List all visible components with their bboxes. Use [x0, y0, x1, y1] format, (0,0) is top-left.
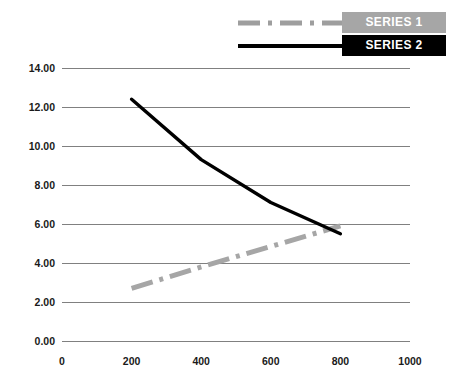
- y-axis-tick-label: 12.00: [3, 101, 55, 113]
- solid-line-icon: [238, 44, 348, 48]
- chart-legend: SERIES 1 SERIES 2: [238, 12, 446, 58]
- x-axis-tick-label: 800: [310, 355, 370, 367]
- y-axis-tick-label: 4.00: [3, 257, 55, 269]
- dash-dot-line-icon: [238, 20, 348, 25]
- x-axis-tick-label: 200: [102, 355, 162, 367]
- line-series-2: [132, 99, 341, 234]
- gridline: [62, 341, 410, 342]
- y-axis-tick-label: 10.00: [3, 140, 55, 152]
- legend-entry-series-1[interactable]: SERIES 1: [238, 12, 446, 33]
- line-series-1: [132, 226, 341, 288]
- x-axis-tick-label: 0: [32, 355, 92, 367]
- legend-entry-series-2[interactable]: SERIES 2: [238, 35, 446, 56]
- legend-label-series-2: SERIES 2: [342, 35, 446, 56]
- plot-area: [62, 68, 410, 341]
- y-axis-tick-label: 8.00: [3, 179, 55, 191]
- y-axis-tick-labels: 0.002.004.006.008.0010.0012.0014.00: [0, 68, 55, 341]
- x-axis-tick-labels: 02004006008001000: [62, 355, 410, 371]
- y-axis-tick-label: 0.00: [3, 335, 55, 347]
- legend-swatch-series-1: [238, 12, 348, 33]
- chart-container: SERIES 1 SERIES 2 0.002.004.006.008.0010…: [0, 0, 457, 392]
- legend-label-series-1: SERIES 1: [342, 12, 446, 33]
- y-axis-tick-label: 14.00: [3, 62, 55, 74]
- x-axis-tick-label: 1000: [380, 355, 440, 367]
- x-axis-tick-label: 400: [171, 355, 231, 367]
- x-axis-tick-label: 600: [241, 355, 301, 367]
- legend-swatch-series-2: [238, 35, 348, 56]
- y-axis-tick-label: 6.00: [3, 218, 55, 230]
- y-axis-tick-label: 2.00: [3, 296, 55, 308]
- series-lines: [62, 68, 410, 341]
